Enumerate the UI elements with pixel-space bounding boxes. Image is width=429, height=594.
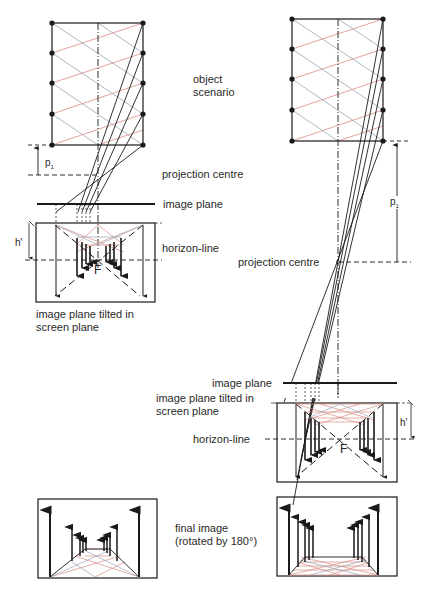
h-prime-symbol-left: h'	[15, 237, 22, 248]
object-scenario-label: object scenario	[193, 73, 235, 99]
focal-point-label-left: F	[94, 263, 101, 277]
focal-point-label-right: F	[340, 442, 347, 456]
p1-symbol-right: p1	[390, 196, 399, 209]
image-plane-label-left: image plane	[163, 198, 223, 211]
p1-symbol-left: p1	[45, 157, 54, 170]
image-plane-label-right: image plane	[212, 377, 272, 390]
right-tilted-image-plane	[265, 400, 415, 482]
projection-centre-label-right: projection centre	[238, 256, 319, 269]
h-prime-symbol-right: h'	[400, 417, 407, 428]
horizon-line-label-left: horizon-line	[162, 242, 219, 255]
final-image-left	[38, 499, 157, 578]
left-tilted-image-plane	[25, 221, 162, 302]
tilted-plane-label-right: image plane tilted in screen plane	[156, 392, 254, 418]
projection-centre-label-left: projection centre	[162, 168, 243, 181]
right-object-scenario	[289, 16, 385, 143]
left-p1-dimension	[28, 145, 98, 175]
horizon-line-label-right: horizon-line	[193, 433, 250, 446]
final-image-right	[277, 497, 397, 576]
final-image-label: final image (rotated by 180°)	[175, 522, 257, 548]
tilted-plane-label-left: image plane tilted in screen plane	[36, 308, 134, 334]
left-projection-rays	[56, 23, 143, 212]
